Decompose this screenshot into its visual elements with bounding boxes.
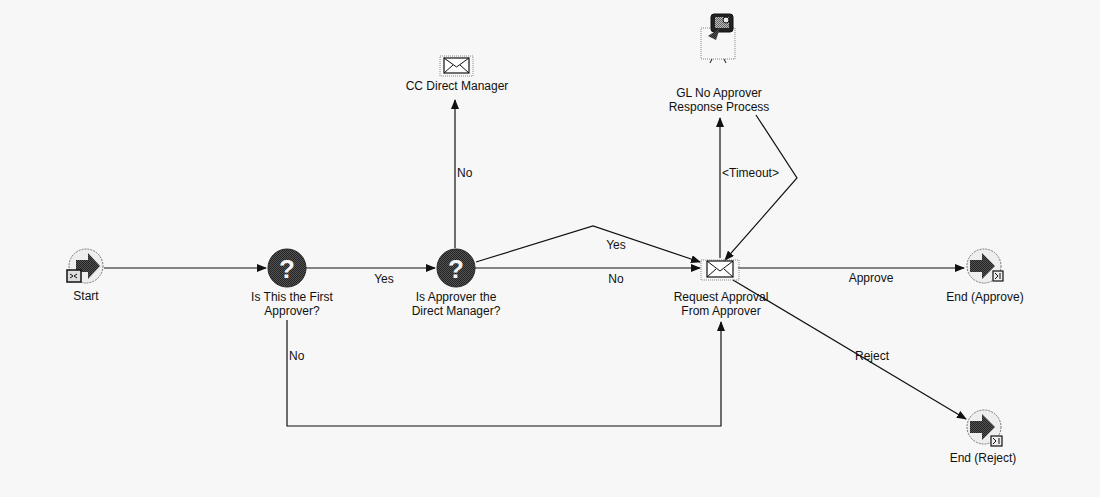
gl-label-line1: GL No Approver [676, 86, 762, 100]
svg-text:?: ? [448, 254, 464, 284]
first-approver-label-line1: Is This the First [251, 290, 333, 304]
edge-label-yes-direct: Yes [606, 238, 626, 252]
cc-manager-label: CC Direct Manager [406, 79, 509, 93]
diagram-edges: ? ? [0, 0, 1100, 497]
direct-manager-label-line2: Direct Manager? [412, 304, 501, 318]
first-approver-label-line2: Approver? [264, 304, 319, 318]
edge-label-reject: Reject [855, 349, 889, 363]
direct-manager-label-line1: Is Approver the [416, 290, 497, 304]
svg-text:?: ? [279, 254, 295, 284]
start-label: Start [73, 289, 98, 303]
request-approval-label-line1: Request Approval [674, 290, 769, 304]
end-approve-label: End (Approve) [946, 290, 1023, 304]
edge-label-yes-first: Yes [374, 272, 394, 286]
edge-label-approve: Approve [849, 271, 894, 285]
end-approve-icon[interactable] [967, 249, 1003, 283]
envelope-icon-request-approval[interactable] [701, 260, 739, 280]
end-reject-icon[interactable] [967, 410, 1002, 446]
request-approval-label-line2: From Approver [681, 304, 760, 318]
edge-first-to-request-loop[interactable] [287, 320, 721, 426]
workflow-canvas: ? ? [0, 0, 1100, 497]
end-reject-label: End (Reject) [950, 451, 1017, 465]
decision-direct-manager-icon[interactable]: ? [437, 249, 475, 287]
edge-label-no-loop: No [289, 349, 304, 363]
edge-label-no-cc: No [457, 166, 472, 180]
decision-first-approver-icon[interactable]: ? [268, 249, 306, 287]
envelope-icon-cc-manager[interactable] [440, 56, 473, 76]
edge-label-no-direct: No [608, 272, 623, 286]
edge-direct-manager-to-request-yes[interactable] [476, 226, 700, 262]
edge-gl-to-request[interactable] [725, 115, 797, 260]
start-icon[interactable] [67, 249, 103, 283]
edge-label-timeout: <Timeout> [722, 166, 779, 180]
gl-label-line2: Response Process [669, 100, 770, 114]
subprocess-icon-gl[interactable] [701, 14, 735, 63]
